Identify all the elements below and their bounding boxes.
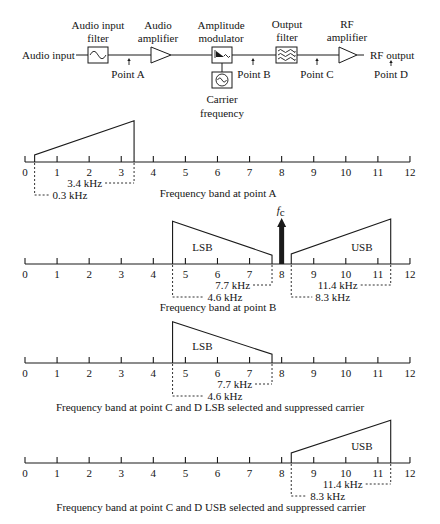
tick-label: 3 bbox=[118, 166, 124, 178]
panel-caption: Frequency band at point A bbox=[160, 187, 277, 199]
panel-caption: Frequency band at point C and D LSB sele… bbox=[56, 401, 365, 413]
amplifier-triangle-icon bbox=[151, 47, 171, 63]
tick-label: 8 bbox=[279, 268, 285, 280]
arrow-head-icon bbox=[251, 58, 254, 61]
tick-label: 11 bbox=[373, 268, 384, 280]
block-label: Audio bbox=[144, 19, 172, 31]
rf-amplifier-block: RF amplifier bbox=[327, 18, 368, 63]
frequency-spectra: 01234567891011123.4 kHz0.3 kHzFrequency … bbox=[22, 121, 415, 513]
tick-label: 0 bbox=[22, 367, 28, 379]
sideband-shape bbox=[291, 219, 390, 264]
carrier-frequency-label: fc bbox=[277, 204, 285, 218]
tick-label: 8 bbox=[279, 467, 285, 479]
tick-label: 11 bbox=[373, 367, 384, 379]
sideband-shape bbox=[173, 221, 272, 264]
tick-label: 10 bbox=[340, 166, 352, 178]
tick-label: 3 bbox=[118, 367, 124, 379]
spectrum-panel-point-a: 01234567891011123.4 kHz0.3 kHzFrequency … bbox=[22, 121, 415, 201]
audio-input-filter-block: Audio input filter bbox=[72, 19, 125, 63]
tick-label: 12 bbox=[404, 467, 415, 479]
tick-label: 1 bbox=[54, 268, 60, 280]
block-label: Output bbox=[272, 18, 303, 30]
tick-label: 12 bbox=[404, 268, 415, 280]
block-label: RF bbox=[340, 18, 353, 30]
tick-label: 7 bbox=[247, 467, 253, 479]
tick-label: 2 bbox=[86, 268, 92, 280]
amplifier-triangle-icon bbox=[339, 47, 357, 63]
sideband-label: USB bbox=[351, 440, 372, 452]
tick-label: 7 bbox=[247, 166, 253, 178]
audio-input-label: Audio input bbox=[22, 49, 75, 61]
carrier-label: frequency bbox=[200, 107, 244, 119]
dimension-label: 8.3 kHz bbox=[315, 291, 350, 303]
block-label: Amplitude bbox=[197, 19, 244, 31]
point-b-marker: Point B bbox=[237, 58, 270, 80]
amplitude-modulator-block: Amplitude modulator bbox=[197, 19, 244, 72]
point-a-marker: Point A bbox=[111, 58, 144, 80]
dimension-label: 7.7 kHz bbox=[215, 279, 250, 291]
tick-label: 9 bbox=[311, 467, 317, 479]
spectrum-panel-point-c-d-usb: 0123456789101112USB11.4 kHz8.3 kHzFreque… bbox=[22, 420, 415, 513]
tick-label: 2 bbox=[86, 467, 92, 479]
tick-label: 10 bbox=[340, 367, 352, 379]
tick-label: 9 bbox=[311, 166, 317, 178]
tick-label: 11 bbox=[373, 467, 384, 479]
carrier-label: Carrier bbox=[206, 93, 237, 105]
output-filter-block: Output filter bbox=[272, 18, 303, 63]
sideband-label: LSB bbox=[192, 340, 212, 352]
tick-label: 3 bbox=[118, 467, 124, 479]
tick-label: 1 bbox=[54, 367, 60, 379]
tick-label: 6 bbox=[215, 166, 221, 178]
spectrum-panel-point-b: 0123456789101112LSBUSBfc7.7 kHz4.6 kHz11… bbox=[22, 204, 415, 313]
sideband-shape bbox=[35, 121, 134, 162]
sideband-shape bbox=[173, 322, 272, 363]
panel-caption: Frequency band at point C and D USB sele… bbox=[56, 501, 366, 513]
block-label: modulator bbox=[198, 32, 244, 44]
dimension-label: 3.4 kHz bbox=[67, 177, 102, 189]
point-b-label: Point B bbox=[237, 68, 270, 80]
tick-label: 5 bbox=[183, 268, 189, 280]
arrow-head-icon bbox=[315, 58, 318, 61]
tick-label: 5 bbox=[183, 367, 189, 379]
dimension-label: 11.4 kHz bbox=[318, 279, 358, 291]
tick-label: 4 bbox=[151, 467, 157, 479]
block-label: amplifier bbox=[138, 32, 179, 44]
sideband-shape bbox=[291, 420, 390, 463]
sideband-label: USB bbox=[351, 241, 372, 253]
tick-label: 9 bbox=[311, 268, 317, 280]
dimension-label: 11.4 kHz bbox=[323, 478, 363, 490]
tick-label: 5 bbox=[183, 467, 189, 479]
audio-amplifier-block: Audio amplifier bbox=[138, 19, 179, 63]
dimension-label: 7.7 kHz bbox=[217, 378, 252, 390]
tick-label: 6 bbox=[215, 467, 221, 479]
tick-label: 8 bbox=[279, 367, 285, 379]
tick-label: 1 bbox=[54, 166, 60, 178]
tick-label: 1 bbox=[54, 467, 60, 479]
tick-label: 3 bbox=[118, 268, 124, 280]
dimension-label: 0.3 kHz bbox=[53, 189, 88, 201]
block-label: amplifier bbox=[327, 31, 368, 43]
block-diagram: Audio input Audio input filter Point A A… bbox=[22, 18, 414, 119]
tick-label: 12 bbox=[404, 367, 415, 379]
tick-label: 0 bbox=[22, 467, 28, 479]
tick-label: 12 bbox=[404, 166, 415, 178]
tick-label: 0 bbox=[22, 268, 28, 280]
rf-output-label: RF output bbox=[370, 49, 414, 61]
carrier-arrow-icon bbox=[277, 218, 286, 264]
point-d-marker: Point D bbox=[374, 60, 408, 80]
arrow-head-icon bbox=[127, 58, 130, 61]
point-c-marker: Point C bbox=[300, 58, 333, 80]
block-label: filter bbox=[276, 31, 298, 43]
tick-label: 11 bbox=[373, 166, 384, 178]
ssb-transmitter-diagram: Audio input Audio input filter Point A A… bbox=[0, 0, 440, 524]
tick-label: 4 bbox=[151, 367, 157, 379]
sideband-label: LSB bbox=[192, 241, 212, 253]
tick-label: 8 bbox=[279, 166, 285, 178]
panel-caption: Frequency band at point B bbox=[160, 301, 277, 313]
block-label: Audio input bbox=[72, 19, 125, 31]
point-a-label: Point A bbox=[111, 68, 144, 80]
carrier-subscript: c bbox=[280, 206, 285, 218]
spectrum-panel-point-c-d-lsb: 0123456789101112LSB7.7 kHz4.6 kHzFrequen… bbox=[22, 322, 415, 413]
tick-label: 0 bbox=[22, 166, 28, 178]
tick-label: 9 bbox=[311, 367, 317, 379]
